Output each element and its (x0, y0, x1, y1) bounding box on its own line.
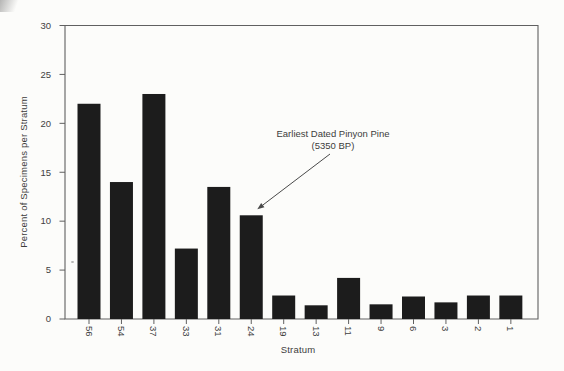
bar-stratum-13 (305, 305, 328, 319)
annotation-arrowhead-icon (257, 203, 264, 209)
x-tick-label-37: 37 (148, 326, 159, 337)
y-tick-label: 5 (46, 264, 51, 275)
y-tick-label: 25 (40, 69, 51, 80)
y-tick-label: 30 (40, 20, 51, 31)
bar-stratum-24 (240, 215, 263, 319)
bar-stratum-37 (142, 94, 165, 319)
x-tick-label-11: 11 (343, 326, 354, 336)
x-tick-label-1: 1 (505, 326, 516, 331)
x-tick-label-24: 24 (246, 326, 257, 337)
bar-stratum-54 (110, 182, 133, 319)
annotation-callout: Earliest Dated Pinyon Pine (5350 BP) (276, 128, 389, 151)
bar-stratum-6 (402, 296, 425, 319)
bar-stratum-9 (370, 304, 393, 319)
bar-stratum-3 (434, 302, 457, 319)
x-tick-label-9: 9 (376, 326, 387, 331)
scan-artifact-speck (71, 261, 74, 263)
x-tick-label-56: 56 (84, 326, 95, 337)
x-tick-label-3: 3 (440, 326, 451, 331)
bar-stratum-1 (499, 296, 522, 319)
bar-stratum-56 (78, 104, 101, 319)
annotation-line2: (5350 BP) (276, 140, 389, 152)
y-tick-label: 0 (46, 313, 51, 324)
y-axis-title: Percent of Specimens per Stratum (18, 96, 29, 248)
bar-stratum-19 (272, 296, 295, 319)
bar-chart-canvas: 05101520253056543733312419131196321 (0, 0, 564, 371)
y-tick-label: 15 (40, 167, 51, 178)
x-tick-label-33: 33 (181, 326, 192, 337)
x-tick-label-13: 13 (311, 326, 322, 337)
y-tick-label: 20 (40, 118, 51, 129)
figure-page: 05101520253056543733312419131196321 Perc… (0, 0, 564, 371)
bar-stratum-2 (467, 296, 490, 319)
bar-stratum-11 (337, 278, 360, 319)
annotation-arrow-line (263, 154, 330, 205)
x-tick-label-6: 6 (408, 326, 419, 331)
x-tick-label-54: 54 (116, 326, 127, 337)
y-tick-label: 10 (40, 215, 51, 226)
plot-box (65, 26, 538, 320)
annotation-line1: Earliest Dated Pinyon Pine (276, 128, 389, 140)
x-tick-label-19: 19 (278, 326, 289, 337)
bar-stratum-33 (175, 249, 198, 319)
x-axis-title: Stratum (281, 344, 316, 355)
bar-stratum-31 (207, 187, 230, 319)
x-tick-label-2: 2 (473, 326, 484, 331)
x-tick-label-31: 31 (213, 326, 224, 337)
